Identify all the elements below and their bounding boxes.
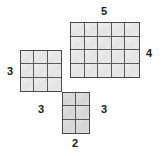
grid-cell	[112, 23, 126, 37]
grid-cell	[98, 64, 112, 78]
dimension-label-top: 5	[101, 6, 107, 17]
grid-cell	[34, 78, 47, 91]
grid-cell	[98, 50, 112, 64]
grid-cell	[125, 23, 139, 37]
grid-cell	[76, 93, 89, 106]
grid-cell	[85, 37, 99, 51]
left-block	[20, 50, 62, 92]
dimension-label-bottom: 2	[72, 138, 78, 149]
dimension-label-bottom-right: 3	[101, 104, 107, 115]
top-right-block	[70, 22, 140, 78]
grid-cell	[98, 37, 112, 51]
grid-cell	[125, 50, 139, 64]
grid-cell	[34, 64, 47, 77]
grid-cell	[76, 106, 89, 119]
dimension-label-right: 4	[146, 48, 152, 59]
grid-cell	[98, 23, 112, 37]
net-diagram: 5 4 3 3 3 2	[0, 0, 165, 156]
grid-cell	[71, 37, 85, 51]
grid-cell	[71, 50, 85, 64]
grid-cell	[76, 120, 89, 133]
bottom-block	[62, 92, 90, 134]
grid-cell	[125, 37, 139, 51]
grid-cell	[112, 37, 126, 51]
grid-cell	[85, 50, 99, 64]
grid-cell	[71, 64, 85, 78]
dimension-label-left: 3	[7, 66, 13, 77]
grid-cell	[48, 64, 61, 77]
grid-cell	[63, 120, 76, 133]
grid-cell	[85, 23, 99, 37]
grid-cell	[85, 64, 99, 78]
grid-cell	[63, 106, 76, 119]
grid-cell	[71, 23, 85, 37]
grid-cell	[112, 64, 126, 78]
grid-cell	[21, 64, 34, 77]
dimension-label-bottom-left: 3	[38, 104, 44, 115]
grid-cell	[63, 93, 76, 106]
grid-cell	[125, 64, 139, 78]
grid-cell	[21, 78, 34, 91]
grid-cell	[48, 51, 61, 64]
grid-cell	[48, 78, 61, 91]
grid-cell	[21, 51, 34, 64]
grid-cell	[34, 51, 47, 64]
grid-cell	[112, 50, 126, 64]
